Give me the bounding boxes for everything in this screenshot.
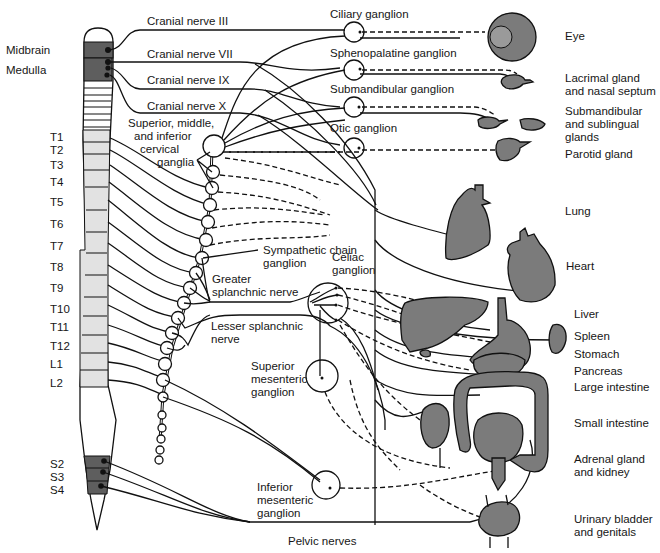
heart-organ — [507, 228, 555, 302]
cranial-nerve-vii-label: Cranial nerve VII — [147, 48, 233, 61]
segment-label-t2: T2 — [50, 144, 63, 157]
medulla-label: Medulla — [6, 64, 46, 77]
segment-label-t12: T12 — [50, 340, 70, 353]
cranial-nerve-ix-label: Cranial nerve IX — [147, 74, 229, 87]
segment-label-t7: T7 — [50, 240, 63, 253]
lacrimal-gland-organ — [501, 75, 533, 89]
urinary-bladder-organ — [479, 502, 520, 536]
parotid-gland-organ — [496, 138, 530, 160]
head-organs — [478, 13, 545, 161]
ciliary-ganglion-label: Ciliary ganglion — [330, 8, 409, 21]
cranial-nerve-iii-label: Cranial nerve III — [147, 15, 228, 28]
organ-label-large-intestine: Large intestine — [574, 381, 649, 394]
submandibular-gland-organ — [478, 117, 508, 128]
pelvic-nerves-label: Pelvic nerves — [288, 535, 356, 548]
small-intestine-organ — [474, 413, 523, 462]
organ-label-spleen: Spleen — [574, 330, 610, 343]
sphenopalatine-ganglion-label: Sphenopalatine ganglion — [330, 47, 457, 60]
segment-label-t11: T11 — [50, 321, 69, 334]
segment-label-t6: T6 — [50, 218, 63, 231]
spinal-cord — [80, 28, 116, 530]
segment-label-t4: T4 — [50, 176, 63, 189]
inferior-mesenteric-ganglion — [312, 471, 340, 499]
otic-ganglion-label: Otic ganglion — [330, 122, 397, 135]
celiac-ganglion — [308, 283, 348, 323]
segment-label-s3: S3 — [50, 471, 64, 484]
kidney-organ — [421, 404, 449, 449]
segment-label-t9: T9 — [50, 282, 63, 295]
superior-mesenteric-ganglion — [306, 360, 338, 392]
cranial-nerve-x-label: Cranial nerve X — [147, 100, 226, 113]
segment-label-t5: T5 — [50, 196, 63, 209]
segment-label-t10: T10 — [50, 303, 70, 316]
organ-label-lung: Lung — [565, 205, 591, 218]
spleen-organ — [549, 324, 566, 353]
organ-label-heart: Heart — [566, 260, 594, 273]
organ-label-parotid: Parotid gland — [565, 148, 633, 161]
organ-label-stomach: Stomach — [574, 348, 619, 361]
submandibular-ganglion-label: Submandibular ganglion — [330, 83, 454, 96]
sublingual-gland-organ — [520, 119, 545, 130]
segment-label-s4: S4 — [50, 484, 64, 497]
organ-label-small-intestine: Small intestine — [574, 417, 649, 430]
body-organs — [401, 185, 566, 548]
liver-organ — [401, 297, 488, 352]
segment-label-l2: L2 — [50, 377, 63, 390]
segment-label-t1: T1 — [50, 131, 63, 144]
lung-organ — [446, 185, 490, 259]
organ-label-pancreas: Pancreas — [574, 365, 623, 378]
segment-label-t3: T3 — [50, 159, 63, 172]
segment-label-l1: L1 — [50, 358, 63, 371]
organ-label-liver: Liver — [574, 308, 599, 321]
segment-label-t8: T8 — [50, 261, 63, 274]
organ-label-eye: Eye — [565, 30, 585, 43]
midbrain-label: Midbrain — [6, 44, 50, 57]
segment-label-s2: S2 — [50, 458, 64, 471]
